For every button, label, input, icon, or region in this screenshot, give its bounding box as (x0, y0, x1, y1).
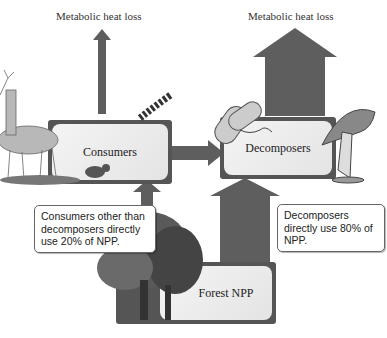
consumers-callout-text: Consumers other than decomposers directl… (41, 210, 145, 247)
mushroom-icon (322, 109, 375, 183)
ground-shadow (0, 175, 80, 185)
caterpillar-icon (140, 94, 172, 118)
decomposers-callout: Decomposers directly use 80% of NPP. (277, 204, 385, 252)
consumers-callout: Consumers other than decomposers directl… (34, 205, 156, 253)
bacteria-icon (211, 98, 272, 147)
decomposers-callout-text: Decomposers directly use 80% of NPP. (284, 209, 373, 246)
mouse-icon (85, 164, 110, 178)
illustrations (0, 0, 387, 338)
deer-icon (0, 70, 58, 180)
